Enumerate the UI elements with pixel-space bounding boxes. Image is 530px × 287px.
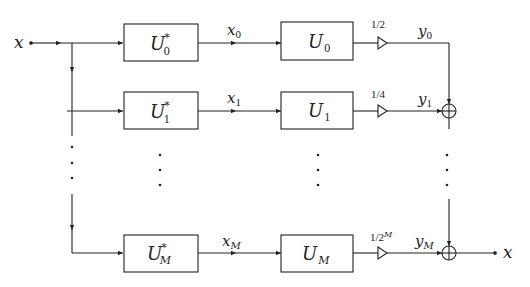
filter-bank-diagram: x x U*0 x0 U0 1/2 y0 U*1 x1 U1 1/4 y1 U*… bbox=[0, 0, 530, 287]
gain-triangle-M bbox=[378, 247, 387, 259]
synthesis-label-M: UM bbox=[302, 243, 330, 267]
input-label: x bbox=[14, 32, 24, 52]
gain-label-1: 1/4 bbox=[371, 88, 386, 100]
output-signal-label-0: y0 bbox=[417, 22, 432, 41]
analysis-label-0: U*0 bbox=[150, 31, 170, 58]
gain-label-0: 1/2 bbox=[371, 18, 385, 30]
gain-label-M: 1/2M bbox=[370, 230, 393, 243]
signal-label-1: x1 bbox=[227, 89, 241, 108]
synthesis-label-0: U0 bbox=[308, 31, 330, 55]
sum-junction-1 bbox=[442, 104, 456, 118]
signal-label-M: xM bbox=[222, 232, 241, 251]
output-label: x bbox=[503, 242, 513, 262]
gain-triangle-1 bbox=[378, 105, 387, 117]
distribution-bus bbox=[67, 43, 123, 253]
analysis-label-1: U*1 bbox=[150, 99, 170, 126]
sum-junction-M bbox=[442, 246, 456, 260]
output-signal-label-M: yM bbox=[414, 232, 434, 251]
output-signal-label-1: y1 bbox=[417, 90, 432, 109]
signal-label-0: x0 bbox=[227, 21, 241, 40]
branch-1 bbox=[124, 92, 456, 129]
gain-triangle-0 bbox=[378, 37, 387, 49]
ellipsis-dots bbox=[71, 146, 449, 187]
analysis-label-M: U*M bbox=[147, 241, 172, 267]
synthesis-label-1: U1 bbox=[308, 100, 330, 124]
input-line bbox=[30, 42, 123, 45]
